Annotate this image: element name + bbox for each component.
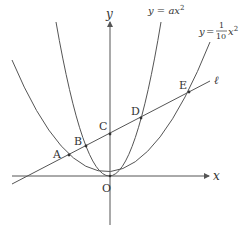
line-l-label: ℓ [214, 74, 219, 87]
wide-parabola-eq: = [206, 26, 214, 37]
point-c-label: C [99, 120, 107, 133]
point-b-label: B [74, 135, 82, 148]
point-b-dot [85, 145, 88, 148]
point-d-label: D [131, 105, 140, 118]
point-d-dot [140, 117, 143, 120]
line-l [12, 81, 210, 184]
wide-parabola-num: 1 [219, 21, 224, 30]
y-axis-label: y [105, 7, 113, 21]
point-e-label: E [179, 79, 187, 92]
x-axis-label: x [213, 169, 220, 183]
wide-parabola-den: 10 [216, 32, 226, 41]
wide-parabola-rhs: x2 [228, 25, 238, 37]
wide-parabola-curve [12, 42, 210, 172]
point-c-dot [109, 133, 112, 136]
wide-parabola-y: y [198, 26, 205, 37]
parabola-line-diagram: A B C D E O x y ℓ y = ax2 y = 1 10 x2 [0, 0, 250, 235]
point-e-dot [188, 91, 191, 94]
steep-parabola-exp: 2 [180, 4, 184, 12]
diagram-svg: A B C D E O x y ℓ y = ax2 y = 1 10 x2 [0, 0, 250, 235]
point-a-dot [68, 154, 71, 157]
origin-label: O [102, 182, 111, 195]
steep-parabola-rhs: ax [168, 5, 180, 16]
steep-parabola-label: y = ax2 [147, 4, 184, 16]
point-a-label: A [52, 148, 62, 161]
origin-dot [109, 175, 111, 177]
